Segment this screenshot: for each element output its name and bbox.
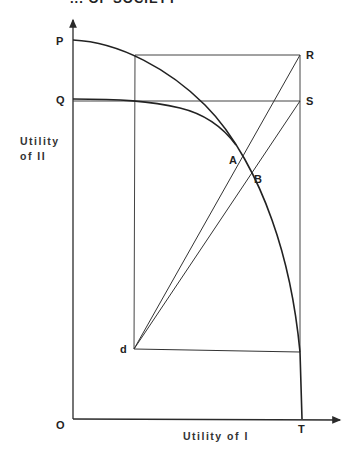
horizontal-line-d — [134, 349, 300, 352]
label-R: R — [306, 49, 314, 61]
outer-frontier-curve-PT — [73, 40, 302, 419]
x-axis — [73, 419, 340, 420]
line-d-to-R — [134, 55, 300, 349]
label-P: P — [56, 35, 63, 47]
label-S: S — [306, 95, 313, 107]
x-axis-title: Utility of I — [183, 430, 249, 442]
y-axis-title-line1: Utility — [20, 135, 60, 147]
vertical-line-d — [134, 55, 135, 349]
utility-possibility-diagram: P Q R S A B d T O Utility of II Utility … — [0, 0, 360, 457]
label-B: B — [254, 173, 262, 185]
label-origin: O — [56, 419, 65, 431]
label-T: T — [298, 423, 305, 435]
inner-frontier-curve-QA — [73, 99, 236, 145]
label-A: A — [229, 154, 237, 166]
y-axis-title-line2: of II — [20, 150, 46, 162]
label-Q: Q — [56, 94, 65, 106]
line-d-to-S — [134, 101, 300, 349]
label-d: d — [120, 343, 127, 355]
